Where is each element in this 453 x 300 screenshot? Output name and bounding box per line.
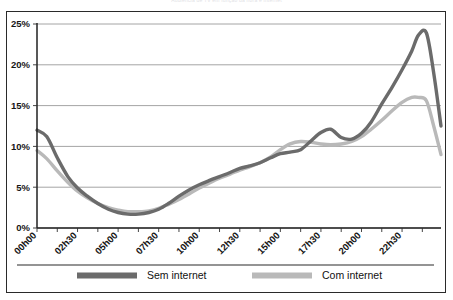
y-tick-label: 10% (11, 141, 31, 152)
x-tick-label: 05h00 (93, 230, 120, 257)
chart-figure: Audiência de TV em função da hora e inte… (0, 0, 453, 300)
series-lines (37, 30, 441, 214)
y-tick-label: 20% (11, 59, 31, 70)
x-tick-label: 02h30 (52, 230, 79, 257)
y-tick-label: 25% (11, 18, 31, 29)
chart-frame: 0%5%10%15%20%25% 00h0002h3005h0007h3010h… (6, 11, 446, 293)
x-tick-label: 20h00 (336, 230, 363, 257)
x-tick-label: 15h00 (255, 230, 282, 257)
legend-swatch (252, 273, 312, 279)
legend-label: Sem internet (147, 269, 207, 281)
y-tick-label: 5% (16, 182, 30, 193)
x-tick-label: 17h30 (296, 230, 323, 257)
legend-label: Com internet (322, 269, 382, 281)
x-tick-label: 12h30 (214, 230, 241, 257)
x-tick-label: 22h30 (377, 230, 404, 257)
gridlines (37, 24, 441, 228)
chart-legend: Sem internetCom internet (17, 265, 434, 281)
x-tick-label: 10h00 (174, 230, 201, 257)
x-tick-label: 00h00 (12, 230, 39, 257)
chart-title: Audiência de TV em função da hora e inte… (0, 0, 453, 4)
x-tick-label: 07h30 (133, 230, 160, 257)
y-tick-label: 15% (11, 100, 31, 111)
y-axis-tick-labels: 0%5%10%15%20%25% (11, 18, 31, 233)
chart-plot-area: 0%5%10%15%20%25% 00h0002h3005h0007h3010h… (7, 12, 444, 291)
series-line-com-internet (37, 97, 441, 212)
legend-swatch (77, 273, 137, 279)
x-axis-tick-labels: 00h0002h3005h0007h3010h0012h3015h0017h30… (12, 230, 404, 257)
